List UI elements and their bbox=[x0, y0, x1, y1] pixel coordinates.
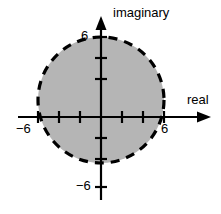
real-tick-label-negative-six: −6 bbox=[16, 122, 31, 135]
real-axis-label: real bbox=[187, 93, 209, 106]
complex-plane-figure: imaginary real 6 −6 6 −6 bbox=[0, 0, 221, 214]
real-axis-arrowhead-icon bbox=[197, 112, 211, 123]
plot-canvas bbox=[0, 0, 221, 214]
imaginary-tick-label-negative-six: −6 bbox=[76, 179, 91, 192]
imaginary-tick-label-positive-six: 6 bbox=[81, 29, 88, 42]
real-tick-label-positive-six: 6 bbox=[161, 122, 168, 135]
imaginary-axis-arrowhead-icon bbox=[96, 16, 107, 30]
imaginary-axis-label: imaginary bbox=[113, 6, 169, 19]
